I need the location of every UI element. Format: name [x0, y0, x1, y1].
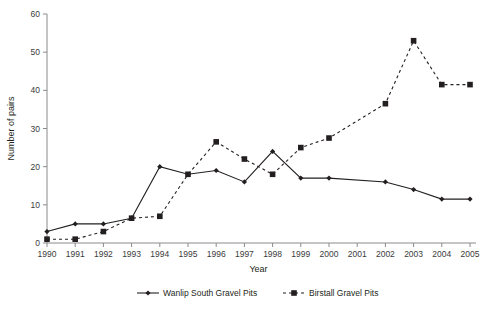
- legend-marker-1: [145, 290, 150, 295]
- data-point-marker: [44, 236, 50, 242]
- x-tick-label: 1990: [38, 249, 57, 259]
- x-tick-label: 1994: [150, 249, 169, 259]
- data-point-marker: [157, 164, 162, 169]
- x-tick-label: 1999: [291, 249, 310, 259]
- data-point-marker: [73, 221, 78, 226]
- x-tick-label: 2003: [404, 249, 423, 259]
- data-point-marker: [101, 229, 107, 235]
- x-tick-label: 1995: [179, 249, 198, 259]
- x-tick-label: 2000: [320, 249, 339, 259]
- x-tick-label: 1997: [235, 249, 254, 259]
- x-axis: 1990199119921993199419951996199719981999…: [38, 243, 480, 259]
- y-tick-label: 10: [31, 200, 41, 210]
- series-line-2: [47, 41, 470, 239]
- x-axis-title: Year: [249, 264, 267, 274]
- line-chart: 0102030405060 19901991199219931994199519…: [0, 0, 487, 310]
- data-point-marker: [185, 172, 191, 178]
- series-layer: [44, 38, 473, 242]
- legend-label-2: Birstall Gravel Pits: [309, 288, 378, 298]
- data-point-marker: [439, 82, 445, 88]
- legend-marker-2: [291, 290, 297, 296]
- data-point-marker: [411, 38, 417, 44]
- x-tick-label: 1998: [263, 249, 282, 259]
- data-point-marker: [44, 229, 49, 234]
- series-1: [44, 149, 472, 234]
- x-tick-label: 2001: [348, 249, 367, 259]
- data-point-marker: [326, 135, 332, 141]
- data-point-marker: [129, 215, 135, 221]
- y-tick-label: 0: [35, 238, 40, 248]
- x-tick-label: 2005: [461, 249, 480, 259]
- data-point-marker: [467, 197, 472, 202]
- series-2: [44, 38, 473, 242]
- x-tick-label: 1992: [94, 249, 113, 259]
- data-point-marker: [439, 197, 444, 202]
- data-point-marker: [383, 101, 389, 107]
- x-tick-label: 1991: [66, 249, 85, 259]
- data-point-marker: [242, 156, 248, 162]
- x-tick-label: 1996: [207, 249, 226, 259]
- data-point-marker: [101, 221, 106, 226]
- y-tick-label: 40: [31, 85, 41, 95]
- data-point-marker: [214, 168, 219, 173]
- data-point-marker: [270, 172, 276, 178]
- legend-label-1: Wanlip South Gravel Pits: [163, 288, 257, 298]
- y-axis: 0102030405060: [31, 9, 47, 248]
- data-point-marker: [383, 179, 388, 184]
- y-tick-label: 50: [31, 47, 41, 57]
- y-axis-title: Number of pairs: [6, 96, 16, 161]
- data-point-marker: [411, 187, 416, 192]
- series-line-1: [47, 151, 470, 231]
- chart-container: 0102030405060 19901991199219931994199519…: [0, 0, 487, 310]
- x-tick-label: 2002: [376, 249, 395, 259]
- y-tick-label: 30: [31, 124, 41, 134]
- chart-legend: Wanlip South Gravel PitsBirstall Gravel …: [137, 288, 378, 298]
- data-point-marker: [213, 139, 219, 145]
- data-point-marker: [298, 145, 304, 151]
- data-point-marker: [72, 236, 78, 242]
- x-tick-label: 2004: [432, 249, 451, 259]
- data-point-marker: [157, 213, 163, 219]
- x-tick-label: 1993: [122, 249, 141, 259]
- y-tick-label: 20: [31, 162, 41, 172]
- y-tick-label: 60: [31, 9, 41, 19]
- data-point-marker: [326, 176, 331, 181]
- data-point-marker: [467, 82, 473, 88]
